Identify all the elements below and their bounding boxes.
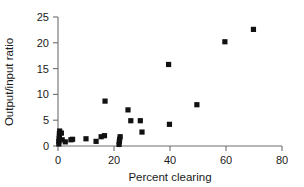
- data-point-marker: [251, 27, 256, 32]
- data-point-marker: [63, 139, 68, 144]
- x-tick-label: 60: [220, 154, 232, 166]
- y-tick-label: 5: [43, 114, 49, 126]
- x-tick-label: 20: [108, 154, 120, 166]
- y-tick-label: 0: [43, 140, 49, 152]
- y-axis-ticks: 0510152025: [37, 11, 58, 152]
- y-tick-label: 25: [37, 11, 49, 23]
- y-axis-title: Output/input ratio: [3, 38, 15, 126]
- data-point-marker: [222, 39, 227, 44]
- scatter-chart-figure: 0510152025 020406080 Percent clearing Ou…: [0, 0, 304, 187]
- data-point-marker: [139, 129, 144, 134]
- data-point-marker: [102, 133, 107, 138]
- x-tick-label: 80: [276, 154, 288, 166]
- data-point-marker: [125, 107, 130, 112]
- data-point-marker: [70, 137, 75, 142]
- data-point-marker: [93, 139, 98, 144]
- x-tick-label: 40: [164, 154, 176, 166]
- y-tick-label: 10: [37, 88, 49, 100]
- y-tick-label: 15: [37, 63, 49, 75]
- data-point-marker: [83, 136, 88, 141]
- data-point-marker: [118, 134, 123, 139]
- data-point-marker: [138, 118, 143, 123]
- data-point-marker: [59, 131, 64, 136]
- data-point-marker: [166, 62, 171, 67]
- data-point-marker: [194, 102, 199, 107]
- x-axis-ticks: 020406080: [55, 146, 288, 166]
- data-point-marker: [167, 122, 172, 127]
- data-point-group: [56, 27, 256, 147]
- x-axis-title: Percent clearing: [128, 171, 211, 183]
- x-tick-label: 0: [55, 154, 61, 166]
- y-tick-label: 20: [37, 37, 49, 49]
- scatter-plot-canvas: 0510152025 020406080 Percent clearing Ou…: [0, 0, 304, 187]
- data-point-marker: [102, 99, 107, 104]
- data-point-marker: [128, 118, 133, 123]
